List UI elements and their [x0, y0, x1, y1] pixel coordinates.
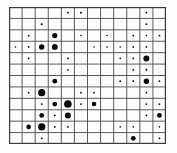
- data-point-bubble: [159, 137, 161, 139]
- data-point-bubble: [157, 113, 162, 118]
- data-point-bubble: [52, 44, 58, 50]
- data-point-bubble: [80, 103, 82, 105]
- data-point-bubble: [80, 35, 82, 37]
- data-point-bubble: [132, 80, 134, 82]
- data-point-bubble: [28, 35, 30, 37]
- data-point-bubble: [119, 46, 121, 48]
- data-point-bubble: [132, 69, 134, 71]
- grid-svg: [9, 7, 166, 144]
- data-point-bubble: [145, 69, 147, 71]
- bubble-matrix-plot: [9, 7, 166, 144]
- data-point-bubble: [52, 33, 57, 38]
- data-point-bubble: [80, 12, 82, 14]
- data-point-bubble: [26, 125, 31, 130]
- data-point-bubble: [15, 46, 17, 48]
- data-point-bubble: [52, 79, 57, 84]
- data-point-bubble: [67, 12, 69, 14]
- figure-root: [0, 0, 177, 153]
- data-point-bubble: [159, 35, 161, 37]
- data-point-bubble: [144, 79, 149, 84]
- data-point-bubble: [80, 92, 82, 94]
- data-point-bubble: [93, 92, 95, 94]
- data-point-bubble: [54, 115, 56, 117]
- data-point-bubble: [145, 46, 147, 48]
- data-point-bubble: [106, 35, 108, 37]
- data-point-bubble: [143, 55, 149, 61]
- data-point-bubble: [145, 103, 147, 105]
- data-point-bubble: [92, 102, 97, 107]
- data-point-bubble: [67, 57, 69, 59]
- data-point-bubble: [38, 123, 45, 130]
- data-point-bubble: [28, 92, 30, 94]
- data-point-bubble: [119, 58, 121, 60]
- data-point-bubble: [145, 92, 147, 94]
- data-point-bubble: [119, 126, 121, 128]
- data-point-bubble: [41, 23, 43, 25]
- data-point-bubble: [67, 69, 69, 71]
- data-point-bubble: [119, 80, 121, 82]
- data-point-bubble: [54, 126, 56, 128]
- data-point-bubble: [131, 136, 136, 141]
- data-point-bubble: [145, 115, 147, 117]
- data-point-bubble: [106, 46, 108, 48]
- data-point-bubble: [39, 113, 44, 118]
- data-point-bubble: [28, 46, 30, 48]
- data-point-bubble: [38, 89, 45, 96]
- data-point-bubble: [159, 80, 161, 82]
- data-point-bubble: [64, 100, 72, 108]
- data-point-bubble: [132, 35, 134, 37]
- data-point-bubble: [159, 103, 161, 105]
- data-point-bubble: [67, 126, 69, 128]
- data-point-bubble: [65, 112, 71, 118]
- data-point-bubble: [39, 44, 44, 49]
- data-point-bubble: [28, 57, 30, 59]
- data-point-bubble: [159, 126, 161, 128]
- data-point-bubble: [52, 102, 57, 107]
- data-point-bubble: [146, 35, 148, 37]
- data-point-bubble: [132, 126, 134, 128]
- data-point-bubble: [145, 12, 147, 14]
- data-point-bubble: [41, 103, 43, 105]
- data-point-bubble: [93, 46, 95, 48]
- data-point-bubble: [132, 46, 134, 48]
- data-point-bubble: [145, 23, 147, 25]
- data-point-bubble: [132, 57, 134, 59]
- data-point-bubble: [41, 137, 43, 139]
